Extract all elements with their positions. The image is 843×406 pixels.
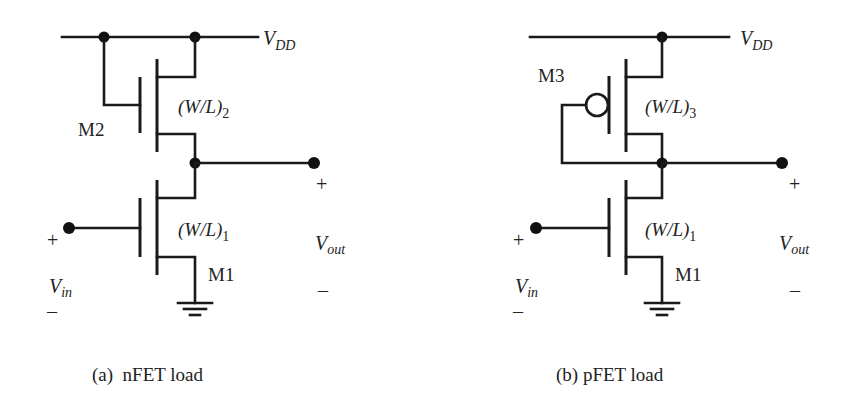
m1-drain-wire: [626, 163, 662, 198]
m2-drain-wire: [157, 37, 195, 77]
input-terminal[interactable]: [63, 222, 75, 234]
m3-bubble-icon: [586, 94, 608, 116]
m3-label: M3: [538, 65, 564, 86]
ground-icon: [645, 303, 679, 315]
vout-minus: –: [317, 279, 329, 301]
vout-minus: –: [789, 279, 801, 301]
m2-label: M2: [78, 119, 104, 140]
m2-ratio-label: (W/L)2: [178, 96, 229, 121]
m3-ratio-label: (W/L)3: [645, 96, 696, 121]
m2-source-wire: [157, 134, 195, 163]
vdd-label: VDD: [740, 27, 772, 53]
vin-label: Vin: [49, 275, 72, 300]
vin-plus: +: [513, 229, 524, 251]
vout-plus: +: [316, 173, 327, 195]
vin-minus: –: [46, 300, 58, 322]
m1-label: M1: [208, 264, 234, 285]
m1-ratio-label: (W/L)1: [645, 219, 696, 244]
input-terminal[interactable]: [530, 222, 542, 234]
m1-transistor-symbol: [69, 163, 195, 303]
output-terminal[interactable]: [308, 157, 320, 169]
m3-source-wire: [626, 37, 662, 77]
m1-drain-wire: [157, 163, 195, 198]
vin-plus: +: [47, 229, 58, 251]
panel-b-pfet-load: VDD M3 (W/L)3 + Vout – (W/L)1 M1: [512, 27, 810, 386]
vout-plus: +: [789, 173, 800, 195]
m1-transistor-symbol: [536, 163, 662, 303]
vin-label: Vin: [515, 275, 538, 300]
vout-label: Vout: [315, 232, 346, 257]
m3-drain-wire: [626, 134, 662, 163]
m2-gate-wire: [104, 37, 140, 105]
m1-source-wire: [626, 257, 662, 303]
caption-b: (b) pFET load: [556, 364, 664, 386]
output-terminal[interactable]: [776, 157, 788, 169]
inverter-circuits-figure: VDD M2 (W/L)2 + Vout – (W/L)1 M1 + V: [0, 0, 843, 406]
caption-a: (a) nFET load: [92, 364, 203, 386]
vdd-label: VDD: [263, 27, 295, 53]
vin-minus: –: [512, 300, 524, 322]
m1-ratio-label: (W/L)1: [178, 219, 229, 244]
m1-source-wire: [157, 257, 195, 303]
ground-icon: [178, 303, 212, 315]
m1-label: M1: [675, 264, 701, 285]
vout-label: Vout: [779, 232, 810, 257]
panel-a-nfet-load: VDD M2 (W/L)2 + Vout – (W/L)1 M1 + V: [46, 27, 346, 386]
